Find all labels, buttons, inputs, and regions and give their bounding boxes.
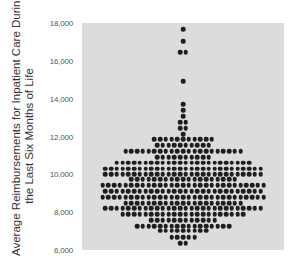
- data-point: [143, 206, 148, 211]
- data-point: [224, 160, 229, 165]
- data-point: [178, 50, 183, 55]
- data-point: [227, 177, 232, 182]
- data-point: [204, 183, 209, 188]
- data-point: [224, 206, 229, 211]
- data-point: [103, 189, 108, 194]
- data-point: [163, 183, 168, 188]
- data-point: [192, 137, 197, 142]
- data-point: [163, 201, 168, 206]
- data-point: [195, 166, 200, 171]
- data-point: [175, 235, 180, 240]
- data-point: [258, 166, 263, 171]
- data-point: [221, 201, 226, 206]
- data-point: [152, 201, 157, 206]
- data-point: [192, 235, 197, 240]
- data-point: [186, 201, 191, 206]
- data-point: [140, 195, 145, 200]
- data-point: [166, 166, 171, 171]
- data-point: [129, 177, 134, 182]
- data-point: [152, 195, 157, 200]
- data-point: [184, 166, 189, 171]
- data-point: [155, 166, 160, 171]
- data-point: [189, 218, 194, 223]
- data-point: [258, 172, 263, 177]
- data-point: [178, 172, 183, 177]
- data-point: [204, 229, 209, 234]
- data-point: [175, 177, 180, 182]
- data-point: [172, 172, 177, 177]
- data-point: [250, 195, 255, 200]
- data-point: [201, 160, 206, 165]
- data-point: [120, 206, 125, 211]
- data-point: [158, 201, 163, 206]
- data-point: [184, 212, 189, 217]
- data-point: [235, 172, 240, 177]
- data-point: [218, 160, 223, 165]
- data-point: [146, 224, 151, 229]
- data-point: [132, 206, 137, 211]
- data-point: [178, 160, 183, 165]
- data-point: [175, 149, 180, 154]
- data-point: [140, 224, 145, 229]
- data-point: [247, 160, 252, 165]
- data-point: [161, 155, 166, 160]
- data-point: [201, 212, 206, 217]
- data-point: [112, 195, 117, 200]
- data-point: [175, 224, 180, 229]
- data-point: [169, 201, 174, 206]
- data-point: [241, 206, 246, 211]
- data-point: [198, 183, 203, 188]
- data-point: [184, 172, 189, 177]
- data-point: [138, 160, 143, 165]
- data-point: [186, 137, 191, 142]
- data-point: [155, 218, 160, 223]
- data-point: [178, 218, 183, 223]
- data-point: [238, 201, 243, 206]
- data-point: [132, 212, 137, 217]
- data-point: [132, 166, 137, 171]
- data-point: [138, 172, 143, 177]
- data-point: [169, 183, 174, 188]
- data-point: [195, 155, 200, 160]
- data-point: [227, 224, 232, 229]
- data-point: [184, 126, 189, 131]
- data-point: [172, 206, 177, 211]
- data-point: [158, 195, 163, 200]
- data-point: [204, 149, 209, 154]
- data-point: [123, 195, 128, 200]
- data-point: [129, 149, 134, 154]
- data-point: [181, 132, 186, 137]
- data-point: [192, 201, 197, 206]
- data-point: [192, 224, 197, 229]
- data-point: [155, 160, 160, 165]
- data-point: [186, 195, 191, 200]
- data-point: [166, 143, 171, 148]
- data-point: [126, 189, 131, 194]
- data-point: [241, 160, 246, 165]
- data-point: [224, 172, 229, 177]
- data-point: [195, 206, 200, 211]
- data-point: [209, 201, 214, 206]
- data-point: [255, 183, 260, 188]
- data-point: [198, 224, 203, 229]
- data-point: [132, 189, 137, 194]
- data-point: [109, 189, 114, 194]
- data-point: [158, 229, 163, 234]
- data-point: [261, 195, 266, 200]
- data-point: [163, 229, 168, 234]
- data-point: [201, 166, 206, 171]
- data-point: [189, 166, 194, 171]
- data-point: [192, 177, 197, 182]
- data-point: [181, 229, 186, 234]
- data-point: [207, 160, 212, 165]
- data-point: [158, 177, 163, 182]
- data-point: [184, 143, 189, 148]
- data-point: [181, 201, 186, 206]
- data-point: [253, 206, 258, 211]
- data-point: [135, 201, 140, 206]
- data-point: [198, 195, 203, 200]
- data-point: [117, 195, 122, 200]
- data-point: [106, 195, 111, 200]
- data-point: [129, 183, 134, 188]
- data-point: [140, 201, 145, 206]
